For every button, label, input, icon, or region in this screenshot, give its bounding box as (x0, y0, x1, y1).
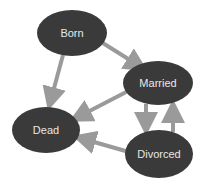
edge-born-to-married (98, 40, 141, 67)
node-born (37, 10, 107, 56)
edge-born-to-dead (50, 55, 63, 103)
edge-married-to-dead (76, 90, 130, 118)
node-divorced (125, 130, 193, 178)
state-diagram: Born Married Dead Divorced (0, 0, 203, 187)
edge-divorced-to-dead (80, 138, 129, 152)
node-married (123, 61, 193, 105)
node-dead (12, 107, 80, 153)
diagram-canvas (0, 0, 203, 187)
